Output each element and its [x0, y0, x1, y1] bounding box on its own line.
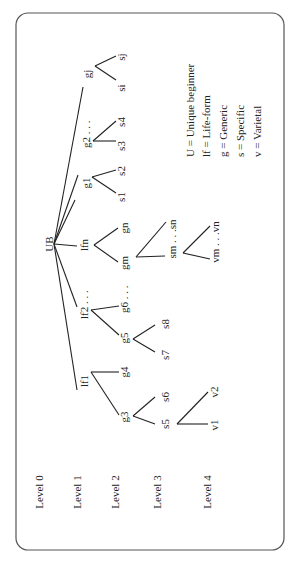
- legend-item-unique-beginner: U = Unique beginner: [184, 63, 196, 157]
- node-lfn: lfn: [78, 238, 90, 251]
- node-s7: s7: [159, 350, 171, 360]
- node-gj: gj: [81, 70, 93, 79]
- node-s2: s2: [115, 166, 127, 176]
- node-s6: s6: [159, 392, 171, 402]
- legend-item-generic: g = Generic: [217, 105, 229, 157]
- node-g3: g3: [118, 411, 130, 423]
- level-1-label: Level 1: [71, 475, 83, 508]
- node-sm-sn: sm . . .sn: [166, 219, 178, 259]
- node-s4: s4: [115, 117, 127, 127]
- node-lf2: lf2 . . .: [78, 290, 90, 319]
- node-g6: g6 . . .: [118, 285, 130, 313]
- node-g5: g5: [118, 332, 130, 344]
- node-gn: gn: [118, 222, 130, 234]
- node-v2: v2: [208, 387, 220, 398]
- node-s8: s8: [159, 319, 171, 329]
- node-UB: UB: [43, 236, 55, 251]
- level-labels: Level 0 Level 1 Level 2 Level 3 Level 4: [33, 475, 213, 509]
- node-lf1: lf1: [78, 375, 90, 387]
- level-0-label: Level 0: [33, 475, 45, 509]
- legend-item-life-form: lf = Life-form: [200, 95, 212, 157]
- legend: U = Unique beginner lf = Life-form g = G…: [184, 63, 263, 157]
- node-s1: s1: [115, 192, 127, 202]
- legend-item-specific: s = Specific: [234, 105, 246, 157]
- node-vm-vn: vm . . .vn: [209, 221, 221, 263]
- folk-taxonomy-diagram: UB lf1 lf2 . . . lfn g1 g2 . . . gj g3 g…: [0, 0, 295, 573]
- node-s5: s5: [159, 419, 171, 429]
- node-si: si: [115, 84, 127, 91]
- diagram-frame: [16, 13, 284, 550]
- node-sj: sj: [115, 53, 127, 60]
- node-gm: gm: [118, 256, 130, 271]
- node-g1: g1: [80, 178, 92, 189]
- node-g4: g4: [118, 366, 130, 378]
- level-2-label: Level 2: [109, 475, 121, 508]
- node-s3: s3: [115, 141, 127, 151]
- level-4-label: Level 4: [201, 475, 213, 509]
- legend-item-varietal: v = Varietal: [251, 106, 263, 157]
- level-3-label: Level 3: [151, 475, 163, 509]
- node-v1: v1: [208, 420, 220, 431]
- node-g2: g2 . . .: [80, 120, 92, 148]
